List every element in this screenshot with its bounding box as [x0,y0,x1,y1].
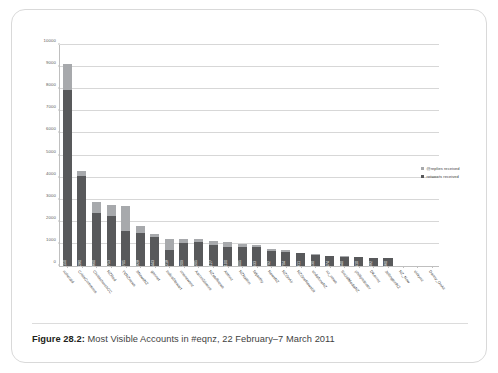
x-label-column: NZNation [234,268,249,314]
y-axis-tick-label: 9000 [46,60,56,65]
x-label-column: vodafoneNZ [307,268,322,314]
bar-column: 1005 [235,45,250,266]
x-axis-labels: nzheraldCrisisCommonsChristchurchCCNZRed… [59,268,439,314]
bar-segment-retweets: 410 [354,257,363,266]
bar-column: 9150 [60,45,75,266]
bar-segment-retweets: 474 [325,256,334,266]
x-label-column: NZRed [103,268,118,314]
bar-column: 611 [293,45,308,266]
bar-column: 1100 [220,45,235,266]
bar-segment-replies [107,205,116,216]
x-label-column: fatjaxthy [249,268,264,314]
stacked-bar: 1205 [194,239,203,266]
bar-column [424,45,439,266]
y-axis-tick-label: 5000 [46,148,56,153]
bar-segment-retweets: 1127 [209,245,218,266]
bar-segment-retweets: 1218 [165,250,174,266]
bar-segment-replies [92,202,101,213]
bar-column: 1209 [177,45,192,266]
bar-segment-retweets: 2890 [92,213,101,266]
x-label-column: NZstuffnews [205,268,220,314]
legend-item: retweets received [421,174,460,179]
bar-segment-replies [63,64,72,90]
bar-column: 2705 [118,45,133,266]
stacked-bar: 704 [281,250,290,266]
stacked-bar: 2753 [107,205,116,266]
x-label-column: nz_news [322,268,337,314]
stacked-bar: 1005 [238,244,247,266]
y-axis-tick-label: 8000 [46,82,56,87]
bar-series-container: 9150428028902753270518281443121812091205… [60,45,439,266]
stacked-bar: 2705 [121,206,130,266]
legend-label: @replies received [427,166,460,171]
bar-segment-retweets: 9150 [63,90,72,266]
bar-segment-retweets: 1443 [150,237,159,266]
x-label-column: SocialMediaNZ [337,268,352,314]
bar-segment-retweets: 2753 [107,216,116,266]
stacked-bar: 1443 [150,234,159,266]
bar-column: 933 [250,45,265,266]
stacked-bar: 4280 [77,171,86,266]
x-label-column: nzherald [59,268,74,314]
y-axis-tick-label: 6000 [46,126,56,131]
bar-segment-retweets: 1209 [179,243,188,266]
bar-column: 410 [352,45,367,266]
x-label-column: AaronGilmore [190,268,205,314]
x-label-column: ChristchurchCC [88,268,103,314]
x-label-column: NZOnAir [278,268,293,314]
x-label-column: CrisisCommons [74,268,89,314]
bar-segment-retweets: 792 [267,251,276,266]
x-label-column: 3NewsNZ [132,268,147,314]
x-axis-tick-label: Danny_OnAir [428,269,447,291]
plot-area: 0100020003000400050006000700080009000100… [59,45,439,267]
x-axis-tick-label: geonet [150,269,161,282]
bar-segment-retweets: 360 [383,258,392,266]
x-label-column: NZ_Now [395,268,410,314]
stacked-bar: 410 [354,257,363,266]
stacked-bar: 382 [369,258,378,266]
figure-number: Figure 28.2: [32,334,85,344]
bar-segment-retweets: 1828 [136,233,145,266]
stacked-bar: 1828 [136,226,145,266]
bar-column [395,45,410,266]
y-axis-tick-label: 3000 [46,192,56,197]
y-axis-tick-label: 2000 [46,214,56,219]
x-label-column: NZOneNewsbit [293,268,308,314]
bar-column: 2753 [104,45,119,266]
y-axis-tick-label: 10000 [44,38,56,43]
bar-segment-retweets: 1205 [194,242,203,266]
y-axis-tick-label: 7000 [46,104,56,109]
bar-segment-retweets: 4280 [77,176,86,266]
x-label-column: TVNZnews [117,268,132,314]
legend-label: retweets received [427,174,459,179]
bar-column: 4280 [75,45,90,266]
bar-segment-retweets: 440 [340,257,349,266]
x-axis-tick-label: NZRed [106,269,118,282]
bar-column: 1828 [133,45,148,266]
bar-column: 1127 [206,45,221,266]
bar-column: 474 [322,45,337,266]
x-label-column: Astonz [220,268,235,314]
y-axis-tick-label: 0 [54,259,57,264]
caption-divider [32,323,468,324]
x-label-column: phillipsdoctor [351,268,366,314]
bar-segment-replies [121,206,130,231]
bar-column: 792 [264,45,279,266]
legend-swatch [421,167,424,170]
stacked-bar: 440 [340,256,349,266]
figure-caption: Figure 28.2: Most Visible Accounts in #e… [32,334,472,344]
chart-legend: @replies receivedretweets received [421,166,460,182]
x-label-column: IndiraStewart [161,268,176,314]
figure-card: 0100020003000400050006000700080009000100… [11,9,487,363]
x-label-column: NewsNZ [264,268,279,314]
x-label-column: onenewsnz [176,268,191,314]
bar-column: 360 [381,45,396,266]
bar-segment-replies [136,226,145,233]
bar-segment-replies [165,239,174,250]
stacked-bar: 1218 [165,239,174,266]
bar-segment-retweets: 2705 [121,231,130,266]
stacked-bar: 530 [311,254,320,266]
y-axis-tick-label: 1000 [46,236,56,241]
bar-column: 530 [308,45,323,266]
stacked-bar: 1127 [209,241,218,266]
